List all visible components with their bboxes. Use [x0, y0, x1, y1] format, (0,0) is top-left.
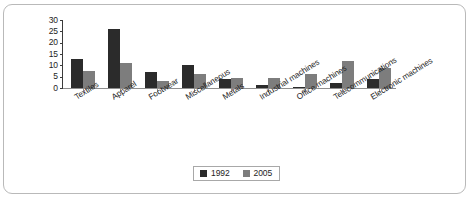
y-tick-label-15: 15	[36, 50, 58, 59]
y-tick-mark-5	[60, 77, 63, 78]
bar-1992	[182, 65, 194, 88]
legend-item-1992: 1992	[200, 169, 230, 178]
legend-label-1992: 1992	[211, 169, 230, 178]
y-tick-mark-10	[60, 65, 63, 66]
y-tick-mark-0	[60, 88, 63, 89]
y-tick-mark-15	[60, 54, 63, 55]
y-tick-label-0: 0	[36, 84, 58, 93]
y-tick-label-10: 10	[36, 61, 58, 70]
chart-legend: 1992 2005	[193, 166, 280, 181]
bar-1992	[145, 72, 157, 88]
plot-area: 051015202530	[62, 20, 396, 88]
bar-group	[256, 20, 280, 88]
y-tick-mark-25	[60, 31, 63, 32]
bar-1992	[71, 59, 83, 88]
bar-group	[182, 20, 206, 88]
chart-figure: 051015202530 TextilesApparelFootwearMisc…	[0, 0, 471, 199]
legend-swatch-2005	[243, 170, 250, 177]
y-tick-label-20: 20	[36, 38, 58, 47]
y-tick-label-25: 25	[36, 27, 58, 36]
y-tick-mark-20	[60, 43, 63, 44]
legend-item-2005: 2005	[243, 169, 273, 178]
legend-label-2005: 2005	[254, 169, 273, 178]
legend-swatch-1992	[200, 170, 207, 177]
bar-group	[108, 20, 132, 88]
y-tick-label-30: 30	[36, 16, 58, 25]
bar-group	[145, 20, 169, 88]
y-tick-label-5: 5	[36, 72, 58, 81]
bar-group	[71, 20, 95, 88]
y-tick-mark-30	[60, 20, 63, 21]
bar-1992	[108, 29, 120, 88]
